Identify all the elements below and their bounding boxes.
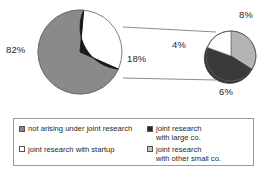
legend-swatch-icon-startup	[19, 146, 25, 152]
pie-of-pie-chart: 82% 18% 4% 8% 6% not arising under joint…	[0, 0, 270, 179]
legend-item-not-arising: not arising under joint research	[19, 124, 147, 133]
chart-legend: not arising under joint research joint r…	[13, 118, 254, 166]
data-label-main-major: 82%	[6, 44, 25, 55]
legend-swatch-icon-large-co	[147, 126, 153, 132]
legend-swatch-icon-not-arising	[19, 126, 25, 132]
legend-item-other-small-co: joint research with other small co.	[147, 145, 253, 163]
data-label-large-co: 6%	[219, 86, 233, 97]
data-label-main-minor: 18%	[127, 53, 146, 64]
legend-swatch-icon-other-small-co	[147, 146, 153, 152]
legend-label-large-co: joint research with large co.	[156, 124, 202, 142]
data-label-other-small-co: 8%	[239, 9, 253, 20]
legend-label-startup: joint research with startup	[28, 145, 115, 154]
chart-plot-area: 82% 18% 4% 8% 6%	[0, 0, 270, 112]
data-label-startup: 4%	[172, 39, 186, 50]
legend-item-startup: joint research with startup	[19, 145, 147, 154]
connector-line-bottom	[123, 78, 216, 80]
legend-label-other-small-co: joint research with other small co.	[156, 145, 221, 163]
legend-item-large-co: joint research with large co.	[147, 124, 253, 142]
connector-line-top	[123, 27, 216, 32]
legend-label-not-arising: not arising under joint research	[28, 124, 132, 133]
